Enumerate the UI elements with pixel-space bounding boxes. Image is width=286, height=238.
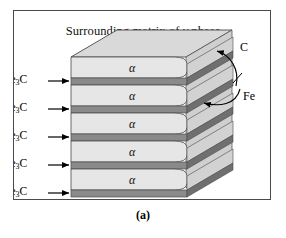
- ferrite-label: α: [129, 173, 135, 188]
- cementite-label: Fe3C: [13, 73, 27, 87]
- annotation-tick: [233, 73, 242, 83]
- cementite-label: Fe3C: [13, 101, 27, 115]
- ferrite-label: α: [129, 145, 135, 160]
- figure-panel: Surrounding matrix of γ phase: [13, 10, 271, 200]
- cementite-label: Fe3C: [13, 157, 27, 171]
- ferrite-label: α: [129, 89, 135, 104]
- ferrite-label: α: [129, 117, 135, 132]
- figure-caption: (a): [0, 208, 286, 223]
- cementite-pointer-arrows: [48, 81, 69, 193]
- pearlite-block-drawing: [14, 11, 271, 200]
- iron-label: Fe: [243, 89, 255, 104]
- carbon-label: C: [240, 40, 248, 55]
- cementite-label: Fe3C: [13, 185, 27, 199]
- cementite-label: Fe3C: [13, 129, 27, 143]
- figure-container: Surrounding matrix of γ phase: [0, 0, 286, 238]
- ferrite-label: α: [129, 61, 135, 76]
